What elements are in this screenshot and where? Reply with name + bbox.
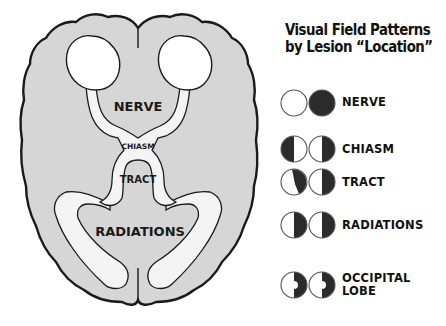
field-1-right-eye [309,136,335,162]
field-1-left-eye [281,136,307,162]
visual-field-legend [281,90,335,298]
field-defect [294,212,307,238]
field-defect [322,212,335,238]
label-tract: TRACT [120,174,157,185]
field-3-right-eye [309,212,335,238]
field-defect [281,136,294,162]
field-2-right-eye [309,169,335,195]
field-2-left-eye [281,169,307,195]
legend-label-lobe: LOBE [342,285,411,298]
legend-label-tract: TRACT [342,176,385,189]
label-chiasm: CHIASM [121,142,154,151]
diagram-title: Visual Field Patterns by Lesion “Locatio… [285,22,423,56]
field-4-left-eye [281,272,307,298]
title-line-2: by Lesion “Location” [285,39,423,56]
label-nerve: NERVE [114,99,163,114]
title-line-1: Visual Field Patterns [285,22,423,39]
field-0-left-eye [281,90,307,116]
legend-label-chiasm: CHIASM [342,143,394,156]
field-3-left-eye [281,212,307,238]
label-radiations: RADIATIONS [95,224,185,239]
field-defect [322,136,335,162]
field-0-right-eye [309,90,335,116]
legend-label-nerve: NERVE [342,96,386,109]
field-defect [322,169,335,195]
field-4-right-eye [309,272,335,298]
legend-label-occipital-lobe: OCCIPITAL LOBE [342,272,411,298]
legend-label-radiations: RADIATIONS [342,219,423,232]
